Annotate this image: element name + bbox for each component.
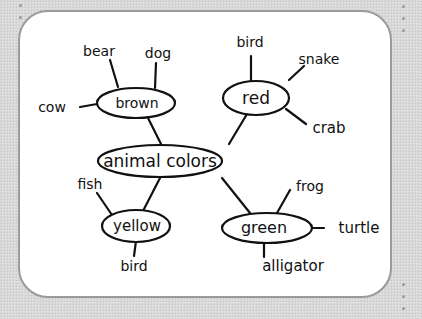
leaf-fish: fish bbox=[78, 176, 103, 192]
connector-cow bbox=[80, 104, 97, 107]
connector-crab bbox=[286, 109, 306, 124]
leaf-turtle: turtle bbox=[339, 219, 380, 237]
leaf-snake: snake bbox=[299, 51, 340, 67]
leaf-frog: frog bbox=[296, 178, 324, 194]
node-brown-label: brown bbox=[115, 95, 158, 111]
leaf-bear: bear bbox=[83, 43, 115, 59]
connector-brown bbox=[148, 118, 161, 144]
connector-frog bbox=[277, 190, 290, 213]
node-center-label: animal colors bbox=[103, 151, 217, 171]
leaf-yellow-bird: bird bbox=[120, 258, 147, 274]
leaf-crab: crab bbox=[312, 119, 345, 137]
connector-bear bbox=[110, 60, 118, 87]
connector-yellow-bird bbox=[134, 241, 136, 256]
connector-yellow bbox=[143, 178, 160, 211]
connector-red bbox=[229, 114, 247, 144]
leaf-cow: cow bbox=[38, 99, 66, 115]
node-red-label: red bbox=[242, 88, 270, 108]
node-yellow-label: yellow bbox=[113, 217, 161, 235]
leaf-dog: dog bbox=[145, 45, 171, 61]
connector-fish bbox=[97, 193, 112, 215]
node-green-label: green bbox=[241, 218, 287, 237]
leaf-alligator: alligator bbox=[262, 257, 324, 275]
connector-green bbox=[222, 178, 250, 213]
connector-snake bbox=[289, 66, 304, 80]
leaf-red-bird: bird bbox=[236, 34, 263, 50]
connector-dog bbox=[155, 63, 156, 88]
